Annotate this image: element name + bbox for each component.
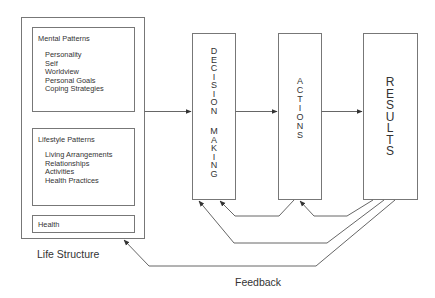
svg-text:N: N <box>211 106 218 116</box>
lifestyle-patterns-title: Lifestyle Patterns <box>38 135 95 144</box>
svg-text:S: S <box>386 144 394 158</box>
feedback-results-to-actions <box>300 200 373 216</box>
life-structure-diagram: Mental Patterns Personality Self Worldvi… <box>0 0 435 298</box>
lifestyle-item: Health Practices <box>45 176 99 185</box>
feedback-actions-to-decision <box>220 200 294 216</box>
mental-patterns-title: Mental Patterns <box>38 34 90 43</box>
health-title: Health <box>38 220 59 229</box>
feedback-results-to-life-structure <box>124 200 395 266</box>
life-structure-label: Life Structure <box>37 248 100 260</box>
feedback-label: Feedback <box>235 276 282 288</box>
mental-item: Coping Strategies <box>45 84 104 93</box>
results-label: R E S U L T S <box>386 75 395 158</box>
svg-text:G: G <box>210 169 217 179</box>
feedback-results-to-decision <box>199 200 384 243</box>
svg-text:S: S <box>297 130 303 140</box>
